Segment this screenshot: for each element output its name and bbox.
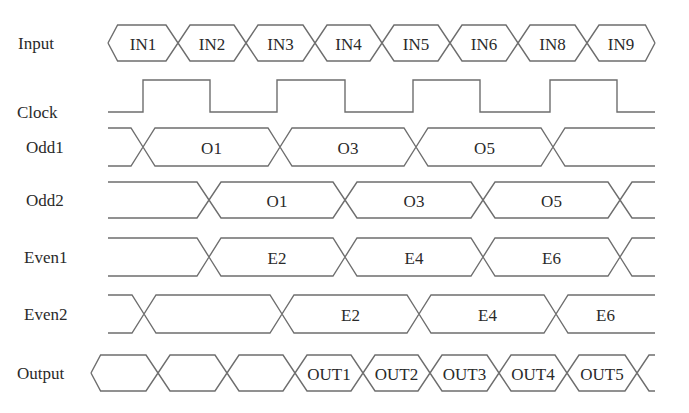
bus-segment (108, 128, 143, 166)
segment-label: IN5 (403, 35, 429, 54)
bus-segment (158, 355, 227, 391)
wave-input: IN1IN2IN3IN4IN5IN6IN8IN9 (108, 25, 655, 61)
signal-labels: Input Clock Odd1 Odd2 Even1 Even2 Output (17, 34, 67, 383)
segment-label: IN2 (199, 35, 225, 54)
wave-clock (108, 80, 655, 112)
segment-label: IN4 (335, 35, 362, 54)
label-even1: Even1 (24, 248, 67, 267)
segment-label: O5 (541, 192, 562, 211)
segment-label: OUT3 (443, 365, 486, 384)
segment-label: O1 (267, 192, 288, 211)
segment-label: E2 (341, 306, 360, 325)
waveforms: IN1IN2IN3IN4IN5IN6IN8IN9O1O3O5O1O3O5E2E4… (91, 25, 655, 391)
wave-odd1: O1O3O5 (108, 128, 655, 166)
segment-label: IN9 (608, 35, 634, 54)
wave-even1: E2E4E6 (108, 238, 655, 276)
segment-label: E6 (596, 306, 615, 325)
segment-label: IN6 (471, 35, 497, 54)
wave-odd2: O1O3O5 (108, 182, 655, 218)
label-even2: Even2 (24, 305, 67, 324)
bus-segment (553, 128, 655, 166)
segment-label: E4 (405, 249, 424, 268)
bus-segment (637, 355, 655, 391)
bus-segment (227, 355, 295, 391)
segment-label: O5 (474, 139, 495, 158)
wave-output: OUT1OUT2OUT3OUT4OUT5 (91, 355, 655, 391)
label-output: Output (17, 364, 65, 383)
wave-even2: E2E4E6 (108, 295, 655, 333)
segment-label: IN1 (130, 35, 156, 54)
segment-label: OUT1 (307, 365, 350, 384)
segment-label: O1 (201, 139, 222, 158)
label-odd2: Odd2 (26, 191, 64, 210)
segment-label: OUT4 (511, 365, 555, 384)
clock-waveform (108, 80, 655, 112)
segment-label: E2 (268, 249, 287, 268)
bus-segment (620, 182, 655, 218)
segment-label: OUT2 (375, 365, 418, 384)
bus-segment (108, 182, 209, 218)
bus-segment (108, 238, 209, 276)
label-odd1: Odd1 (26, 138, 64, 157)
bus-segment (620, 238, 655, 276)
segment-label: OUT5 (580, 365, 623, 384)
segment-label: E6 (542, 249, 561, 268)
timing-diagram: Input Clock Odd1 Odd2 Even1 Even2 Output… (0, 0, 689, 413)
bus-segment (144, 295, 282, 333)
segment-label: O3 (404, 192, 425, 211)
label-input: Input (18, 34, 54, 53)
segment-label: IN3 (267, 35, 293, 54)
label-clock: Clock (17, 103, 58, 122)
segment-label: IN8 (539, 35, 565, 54)
bus-segment (91, 355, 158, 391)
segment-label: O3 (338, 139, 359, 158)
bus-segment (108, 295, 144, 333)
segment-label: E4 (478, 306, 497, 325)
